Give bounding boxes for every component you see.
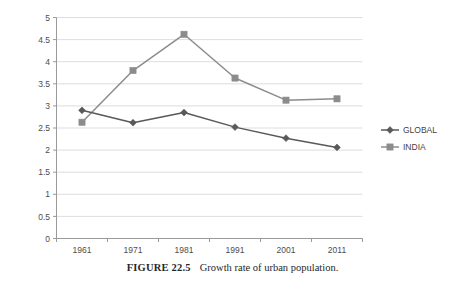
- y-tick-label: 0.5: [38, 212, 50, 222]
- figure-caption: FIGURE 22.5Growth rate of urban populati…: [0, 262, 465, 273]
- legend: GLOBALINDIA: [381, 125, 437, 152]
- figure-container: 00.511.522.533.544.551961197119811991200…: [0, 0, 465, 293]
- square-marker-icon: [232, 75, 238, 81]
- diamond-marker-icon: [283, 135, 290, 142]
- y-tick-label: 5: [45, 13, 50, 23]
- series-line: [82, 34, 337, 122]
- diamond-marker-icon: [79, 107, 86, 114]
- x-tick-label: 1991: [226, 245, 245, 255]
- square-marker-icon: [181, 31, 187, 37]
- square-marker-icon: [79, 119, 85, 125]
- diamond-marker-icon: [130, 119, 137, 126]
- x-tick-label: 1981: [175, 245, 194, 255]
- square-marker-icon: [387, 144, 393, 150]
- square-marker-icon: [334, 96, 340, 102]
- y-tick-label: 4: [45, 57, 50, 67]
- x-tick-label: 2001: [277, 245, 296, 255]
- gridlines: [57, 18, 363, 239]
- legend-label-global: GLOBAL: [403, 125, 437, 135]
- y-tick-label: 3.5: [38, 79, 50, 89]
- line-chart-svg: 00.511.522.533.544.551961197119811991200…: [0, 0, 465, 258]
- y-tick-label: 3: [45, 101, 50, 111]
- x-tick-label: 1971: [124, 245, 143, 255]
- series-india: [79, 31, 340, 125]
- y-tick-label: 1: [45, 189, 50, 199]
- legend-label-india: INDIA: [403, 142, 426, 152]
- x-tick-label: 2011: [328, 245, 347, 255]
- x-axis-ticks: 196119711981199120012011: [57, 239, 363, 256]
- series-global: [79, 107, 341, 151]
- figure-number: FIGURE 22.5: [127, 262, 191, 273]
- y-axis-ticks: 00.511.522.533.544.55: [38, 13, 56, 244]
- diamond-marker-icon: [387, 127, 394, 134]
- diamond-marker-icon: [181, 109, 188, 116]
- square-marker-icon: [283, 97, 289, 103]
- series-line: [82, 110, 337, 147]
- y-tick-label: 0: [45, 234, 50, 244]
- y-tick-label: 2.5: [38, 123, 50, 133]
- diamond-marker-icon: [232, 124, 239, 131]
- figure-caption-text: Growth rate of urban population.: [200, 262, 339, 273]
- chart-plot-area: 00.511.522.533.544.551961197119811991200…: [0, 0, 465, 258]
- y-tick-label: 1.5: [38, 167, 50, 177]
- square-marker-icon: [130, 67, 136, 73]
- y-tick-label: 4.5: [38, 35, 50, 45]
- y-tick-label: 2: [45, 145, 50, 155]
- x-tick-label: 1961: [73, 245, 92, 255]
